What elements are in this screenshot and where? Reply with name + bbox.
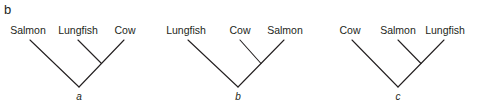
leaf-label-0: Cow <box>339 24 360 36</box>
leaf-label-1: Cow <box>229 24 250 36</box>
branch-outgroup <box>188 40 238 87</box>
tree-b: Lungfish Cow Salmon b <box>166 24 303 102</box>
tree-label: b <box>235 91 241 102</box>
branch-inner-left <box>240 40 261 64</box>
tree-a: Salmon Lungfish Cow a <box>10 24 136 102</box>
tree-c: Cow Salmon Lungfish c <box>339 24 465 102</box>
tree-label: c <box>396 91 401 102</box>
leaf-label-0: Salmon <box>10 24 46 36</box>
leaf-label-2: Cow <box>114 24 135 36</box>
leaf-label-2: Lungfish <box>425 24 465 36</box>
branch-inner-right <box>238 40 284 87</box>
branch-inner-left <box>398 40 421 64</box>
leaf-label-1: Salmon <box>380 24 416 36</box>
phylogeny-figure: b Salmon Lungfish Cow a Lungfish Cow Sal… <box>0 0 478 106</box>
leaf-label-2: Salmon <box>267 24 303 36</box>
branch-outgroup <box>352 40 398 87</box>
branch-outgroup <box>30 40 79 87</box>
branch-inner-left <box>78 40 102 64</box>
leaf-label-0: Lungfish <box>166 24 206 36</box>
tree-label: a <box>76 91 82 102</box>
panel-label: b <box>4 2 11 17</box>
leaf-label-1: Lungfish <box>58 24 98 36</box>
